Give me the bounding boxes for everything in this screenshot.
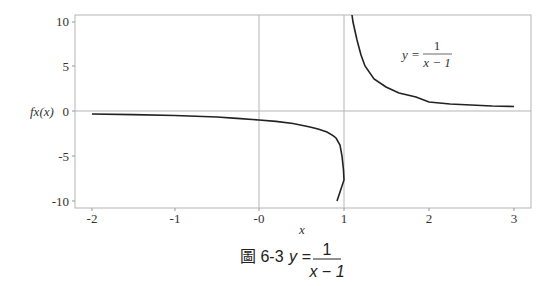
svg-text:y =: y = <box>400 47 420 62</box>
y-tick-label: -5 <box>58 149 69 164</box>
svg-text:1: 1 <box>434 38 441 53</box>
x-tick-label: 1 <box>341 211 348 226</box>
y-tick-label: 10 <box>56 14 69 29</box>
chart: 10 5 0 -5 -10 fx(x) -2 -1 -0 1 2 3 x y =… <box>0 0 558 286</box>
y-tick-label: 0 <box>63 104 70 119</box>
x-tick-label: -0 <box>254 211 265 226</box>
figure-caption: 圖 6-3 y = 1 x − 1 <box>240 241 345 280</box>
curve-left-branch <box>92 114 344 201</box>
svg-text:y =: y = <box>288 248 311 265</box>
x-tick-label: -1 <box>170 211 181 226</box>
x-tick-label: 2 <box>426 211 433 226</box>
function-annotation: y = 1 x − 1 <box>400 38 452 70</box>
svg-text:x − 1: x − 1 <box>308 263 344 280</box>
y-axis-label: fx(x) <box>30 104 54 119</box>
x-tick-label: 3 <box>511 211 518 226</box>
x-axis-label: x <box>298 222 305 237</box>
svg-text:1: 1 <box>323 241 332 258</box>
y-tick-label: 5 <box>63 59 70 74</box>
figure-label: 圖 6-3 <box>240 248 284 265</box>
x-tick-label: -2 <box>87 211 98 226</box>
svg-text:x − 1: x − 1 <box>422 55 451 70</box>
y-tick-label: -10 <box>52 194 69 209</box>
